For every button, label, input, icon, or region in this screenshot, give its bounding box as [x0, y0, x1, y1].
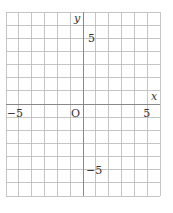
x-axis-label: x	[151, 90, 158, 103]
y-tick-label: 5	[88, 32, 95, 45]
x-tick-label: −5	[7, 107, 23, 120]
y-axis-label: y	[73, 12, 81, 25]
coordinate-grid: x y O −555−5	[0, 0, 173, 213]
x-tick-label: 5	[143, 107, 150, 120]
axes	[6, 12, 160, 196]
origin-label: O	[71, 107, 80, 120]
y-tick-label: −5	[86, 164, 102, 177]
tick-labels: −555−5	[7, 32, 150, 176]
